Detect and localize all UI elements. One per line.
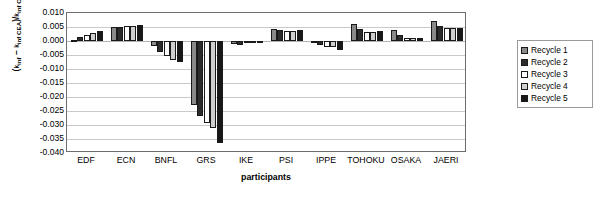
bar[interactable] [277,30,283,41]
bar[interactable] [71,40,77,42]
y-axis-tick-label: -0.020 [22,92,64,101]
bar[interactable] [450,28,456,41]
legend-swatch-icon [521,47,528,54]
y-axis-tick-label: -0.025 [22,106,64,115]
bar[interactable] [284,31,290,41]
bar[interactable] [151,41,157,46]
bar[interactable] [297,30,303,41]
bar[interactable] [444,28,450,41]
legend-item[interactable]: Recycle 2 [521,56,589,68]
bar[interactable] [124,26,130,41]
x-axis-tick-labels: EDFECNBNFLGRSIKEPSIIPPETOHOKUOSAKAJAERI [66,155,466,169]
x-axis-tick-label: JAERI [426,155,466,166]
bar[interactable] [170,41,176,60]
bar[interactable] [164,41,170,56]
legend-swatch-icon [521,83,528,90]
bar[interactable] [370,32,376,41]
bar[interactable] [157,41,163,52]
bar-group [271,13,303,151]
bar[interactable] [137,25,143,41]
bar[interactable] [210,41,216,128]
bar-group-inner [151,13,183,151]
bar[interactable] [237,41,243,45]
x-axis-tick-label: GRS [186,155,226,166]
bar[interactable] [204,41,210,123]
bar-group-inner [431,13,463,151]
bar-group [311,13,343,151]
legend-swatch-icon [521,71,528,78]
bar[interactable] [397,35,403,41]
bar[interactable] [217,41,223,143]
x-axis-tick-label: BNFL [146,155,186,166]
bar[interactable] [410,38,416,41]
bar-group [351,13,383,151]
bar-group-inner [111,13,143,151]
bar[interactable] [337,41,343,50]
legend-label: Recycle 4 [531,82,568,90]
x-axis-tick-label: TOHOKU [346,155,386,166]
bar[interactable] [191,41,197,105]
bar[interactable] [357,29,363,41]
bar-group [71,13,103,151]
bar[interactable] [404,38,410,41]
bar[interactable] [431,21,437,41]
bar[interactable] [77,37,83,41]
bar[interactable] [84,35,90,41]
bar[interactable] [437,26,443,41]
bar-group [151,13,183,151]
legend-swatch-icon [521,95,528,102]
bar[interactable] [330,41,336,47]
x-axis-tick-label: OSAKA [386,155,426,166]
plot-area [66,12,466,152]
legend-swatch-icon [521,59,528,66]
x-axis-tick-label: IPPE [306,155,346,166]
y-axis-tick-label: -0.005 [22,50,64,59]
x-axis-tick-label: ECN [106,155,146,166]
legend-item[interactable]: Recycle 4 [521,80,589,92]
bar[interactable] [231,41,237,44]
legend-item[interactable]: Recycle 3 [521,68,589,80]
y-axis-tick-label: -0.030 [22,120,64,129]
bar-group-inner [71,13,103,151]
bar[interactable] [391,30,397,41]
y-axis-tick-label: -0.035 [22,134,64,143]
legend-item[interactable]: Recycle 5 [521,92,589,104]
bar-group [191,13,223,151]
x-axis-title: participants [66,172,466,182]
bar[interactable] [197,41,203,116]
bar-group-inner [311,13,343,151]
bar[interactable] [364,32,370,41]
legend: Recycle 1Recycle 2Recycle 3Recycle 4Recy… [517,40,593,108]
bar[interactable] [250,41,256,43]
bar[interactable] [271,29,277,41]
bar[interactable] [351,24,357,41]
bar[interactable] [417,38,423,41]
bar[interactable] [311,41,317,43]
bar[interactable] [130,26,136,41]
bar[interactable] [244,41,250,43]
bar[interactable] [377,31,383,41]
bar-group-inner [191,13,223,151]
bar[interactable] [111,27,117,41]
y-axis-tick-label: -0.040 [22,148,64,157]
bar-group-inner [351,13,383,151]
legend-label: Recycle 5 [531,94,568,102]
y-axis-tick-label: 0.000 [22,36,64,45]
bar[interactable] [290,31,296,41]
legend-label: Recycle 1 [531,46,568,54]
y-axis-tick-label: 0.010 [22,8,64,17]
bar[interactable] [457,28,463,41]
bar[interactable] [324,41,330,47]
bar[interactable] [97,31,103,41]
legend-label: Recycle 2 [531,58,568,66]
bar-group [231,13,263,151]
bar[interactable] [177,41,183,62]
bar[interactable] [90,33,96,41]
legend-item[interactable]: Recycle 1 [521,44,589,56]
bar-group-inner [231,13,263,151]
bar[interactable] [117,27,123,41]
bar[interactable] [257,41,263,43]
x-axis-tick-label: IKE [226,155,266,166]
bar[interactable] [317,41,323,45]
bar-chart: (kinf – kinf CEA)/kinf CEA 0.0100.0050.0… [0,0,599,210]
